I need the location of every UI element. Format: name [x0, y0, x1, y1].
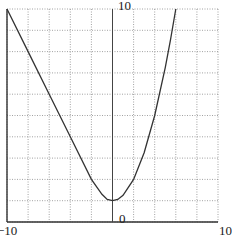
axes — [7, 9, 218, 222]
origin-label: 0 — [119, 212, 126, 225]
x-axis-max-label: 10 — [219, 224, 232, 237]
y-axis-max-label: 10 — [118, 0, 131, 12]
chart-plot-area — [0, 0, 232, 237]
x-axis-min-label: −10 — [0, 224, 17, 237]
